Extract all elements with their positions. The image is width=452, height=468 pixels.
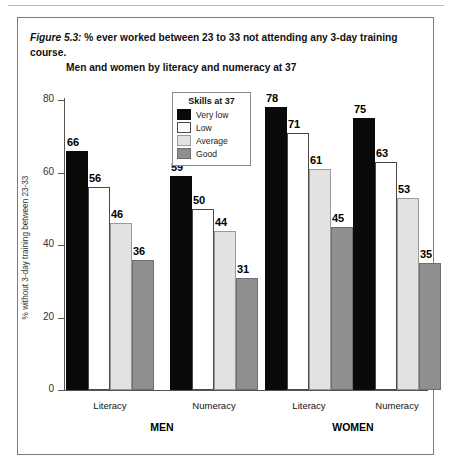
bar-series-container: 66564636595044317871614575635335 bbox=[0, 0, 452, 390]
bar-verylow-group-4 bbox=[353, 118, 375, 390]
legend-rows: Very lowLowAverageGood bbox=[177, 109, 246, 159]
x-axis-line bbox=[64, 390, 428, 391]
legend-swatch-verylow-icon bbox=[177, 109, 191, 120]
bar-good-group-2 bbox=[236, 278, 258, 390]
bar-verylow-group-2 bbox=[170, 176, 192, 390]
bar-value-label: 46 bbox=[111, 208, 123, 220]
legend-label: Very low bbox=[196, 110, 228, 120]
supergroup-label-men: MEN bbox=[66, 421, 258, 433]
legend-title: Skills at 37 bbox=[177, 96, 246, 106]
bar-low-group-4 bbox=[375, 162, 397, 390]
bar-value-label: 50 bbox=[193, 194, 205, 206]
y-tick-0 bbox=[58, 390, 65, 391]
bar-value-label: 44 bbox=[215, 216, 227, 228]
bar-value-label: 61 bbox=[310, 154, 322, 166]
bar-low-group-3 bbox=[287, 133, 309, 390]
bar-value-label: 35 bbox=[420, 248, 432, 260]
bar-average-group-1 bbox=[110, 223, 132, 390]
group-label-numeracy-4: Numeracy bbox=[335, 400, 452, 411]
legend-label: Low bbox=[196, 123, 212, 133]
bar-average-group-2 bbox=[214, 231, 236, 391]
chart-legend: Skills at 37 Very lowLowAverageGood bbox=[172, 92, 251, 166]
bar-low-group-1 bbox=[88, 187, 110, 390]
chart-plot-area: % without 3-day training between 23-33 0… bbox=[0, 0, 452, 468]
bar-value-label: 75 bbox=[354, 103, 366, 115]
supergroup-label-women: WOMEN bbox=[265, 421, 441, 433]
bar-value-label: 56 bbox=[89, 172, 101, 184]
bar-value-label: 78 bbox=[266, 92, 278, 104]
bar-value-label: 63 bbox=[376, 147, 388, 159]
bar-low-group-2 bbox=[192, 209, 214, 390]
bar-value-label: 31 bbox=[237, 263, 249, 275]
legend-swatch-good-icon bbox=[177, 148, 191, 159]
bar-good-group-3 bbox=[331, 227, 353, 390]
legend-label: Good bbox=[196, 149, 217, 159]
bar-value-label: 66 bbox=[67, 136, 79, 148]
bar-good-group-4 bbox=[419, 263, 441, 390]
bar-average-group-4 bbox=[397, 198, 419, 390]
bar-verylow-group-1 bbox=[66, 151, 88, 390]
bar-value-label: 53 bbox=[398, 183, 410, 195]
bar-value-label: 36 bbox=[133, 245, 145, 257]
legend-item-good: Good bbox=[177, 148, 246, 159]
bar-value-label: 71 bbox=[288, 118, 300, 130]
bar-value-label: 45 bbox=[332, 212, 344, 224]
bar-verylow-group-3 bbox=[265, 107, 287, 390]
legend-item-average: Average bbox=[177, 135, 246, 146]
legend-label: Average bbox=[196, 136, 228, 146]
bar-good-group-1 bbox=[132, 260, 154, 391]
bar-average-group-3 bbox=[309, 169, 331, 390]
legend-item-verylow: Very low bbox=[177, 109, 246, 120]
legend-swatch-average-icon bbox=[177, 135, 191, 146]
legend-swatch-low-icon bbox=[177, 122, 191, 133]
legend-item-low: Low bbox=[177, 122, 246, 133]
